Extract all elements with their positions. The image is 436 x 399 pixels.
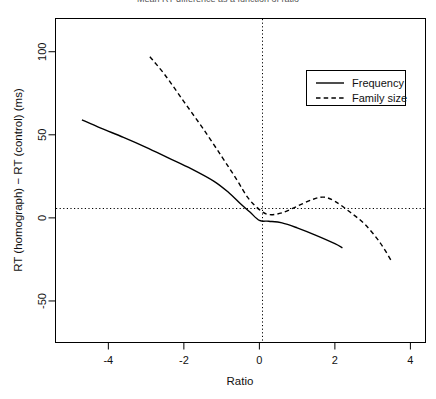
y-axis-title: RT (homograph) − RT (control) (ms) <box>12 88 24 272</box>
x-tick-label: 4 <box>407 354 413 366</box>
y-tick-label: -50 <box>37 293 49 309</box>
y-axis-ticks: -50050100 <box>37 43 56 309</box>
y-tick-label: 100 <box>37 43 49 61</box>
y-tick-label: 0 <box>37 215 49 221</box>
reference-lines <box>56 19 425 342</box>
chart-figure: Mean RT difference as a function of rati… <box>0 0 436 399</box>
x-tick-label: -2 <box>179 354 189 366</box>
plot-frame <box>56 19 426 343</box>
x-tick-label: 2 <box>332 354 338 366</box>
legend-label-family-size: Family size <box>352 92 407 104</box>
x-axis-title: Ratio <box>227 375 254 387</box>
x-tick-label: -4 <box>103 354 113 366</box>
legend-label-frequency: Frequency <box>352 77 404 89</box>
series-line-frequency <box>82 120 343 248</box>
y-tick-label: 50 <box>37 129 49 141</box>
plot-canvas: -4-2024 -50050100 Ratio RT (homograph) −… <box>0 0 436 399</box>
chart-legend: FrequencyFamily size <box>307 71 408 106</box>
x-axis-ticks: -4-2024 <box>103 343 413 366</box>
x-tick-label: 0 <box>256 354 262 366</box>
